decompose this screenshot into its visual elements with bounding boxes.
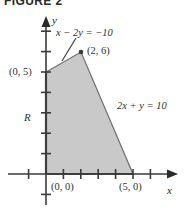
feasible-region-polygon [46, 52, 133, 174]
x-axis-label: x [167, 184, 172, 196]
y-axis-label: y [52, 14, 57, 26]
constraint-2-label: 2x + y = 10 [117, 101, 167, 112]
region-label-R: R [24, 112, 31, 123]
constraint-1-label: x − 2y = −10 [56, 28, 113, 39]
vertex-label-0-0: (0, 0) [51, 182, 74, 193]
vertex-label-0-5: (0, 5) [9, 67, 32, 78]
x-axis-arrow-icon [167, 170, 178, 179]
vertex-label-2-6: (2, 6) [87, 46, 110, 57]
figure-container: FIGURE 2 [0, 0, 189, 217]
y-axis-arrow-icon [42, 16, 51, 27]
vertex-label-5-0: (5, 0) [119, 182, 142, 193]
vertex-dot-2-6 [79, 50, 84, 55]
